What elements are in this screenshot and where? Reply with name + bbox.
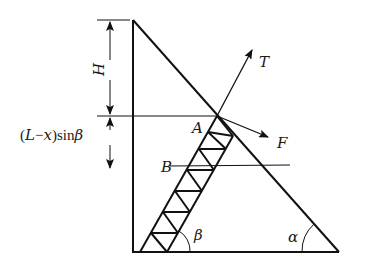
- label-A: A: [190, 119, 203, 137]
- label-T: T: [259, 53, 270, 71]
- label-F: F: [276, 134, 288, 152]
- T-arrow: [217, 50, 252, 116]
- slope-triangle: [132, 20, 339, 252]
- label-Lx-sinbeta: (L−x)sinβ: [20, 126, 83, 144]
- alpha-arc: [302, 224, 314, 252]
- ladder-truss: [140, 116, 233, 252]
- beta-arc: [179, 231, 190, 252]
- hypotenuse: [133, 20, 339, 252]
- label-H: H: [90, 62, 108, 77]
- truss-diagram: H (L−x)sinβ A B T F β α: [0, 0, 368, 270]
- label-B: B: [160, 158, 172, 176]
- label-beta: β: [193, 226, 203, 244]
- label-alpha: α: [288, 228, 298, 246]
- dimension-lines: [97, 20, 290, 166]
